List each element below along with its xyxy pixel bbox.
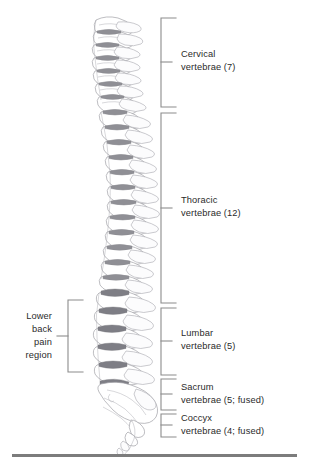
bracket-lower-back-pain <box>57 300 83 372</box>
spine-diagram: .bone{fill:#ffffff;stroke:#a0a0a6;stroke… <box>0 0 310 467</box>
label-sacrum-line1: Sacrum <box>181 381 264 394</box>
label-sacrum-line2: vertebrae (5; fused) <box>181 394 264 407</box>
label-lower-back-pain-region: Lower back pain region <box>0 310 52 362</box>
label-lumbar-line1: Lumbar <box>181 327 236 340</box>
label-thoracic-line1: Thoracic <box>181 194 241 207</box>
lumbar-vertebrae-group <box>93 289 155 387</box>
label-cervical-line1: Cervical <box>181 48 236 61</box>
thoracic-vertebrae-group <box>99 110 159 295</box>
label-cervical-line2: vertebrae (7) <box>181 61 236 74</box>
cervical-vertebrae-group <box>92 17 146 115</box>
bracket-thoracic <box>161 113 176 303</box>
label-thoracic-line2: vertebrae (12) <box>181 207 241 220</box>
bracket-cervical <box>161 18 176 107</box>
coccyx-group <box>117 419 145 456</box>
label-lbp-line2: back <box>0 323 52 336</box>
label-cervical: Cervical vertebrae (7) <box>181 48 236 74</box>
label-lumbar: Lumbar vertebrae (5) <box>181 327 236 353</box>
bracket-coccyx <box>161 414 176 437</box>
label-coccyx-line2: vertebrae (4; fused) <box>181 425 264 438</box>
label-lbp-line1: Lower <box>0 310 52 323</box>
label-thoracic: Thoracic vertebrae (12) <box>181 194 241 220</box>
caption-divider-rule <box>12 454 297 457</box>
label-lbp-line4: region <box>0 349 52 362</box>
label-lumbar-line2: vertebrae (5) <box>181 340 236 353</box>
bracket-sacrum <box>161 379 176 410</box>
label-coccyx-line1: Coccyx <box>181 412 264 425</box>
label-lbp-line3: pain <box>0 336 52 349</box>
sacrum-group <box>98 382 158 428</box>
bracket-lumbar <box>161 308 176 375</box>
label-sacrum: Sacrum vertebrae (5; fused) <box>181 381 264 407</box>
label-coccyx: Coccyx vertebrae (4; fused) <box>181 412 264 438</box>
